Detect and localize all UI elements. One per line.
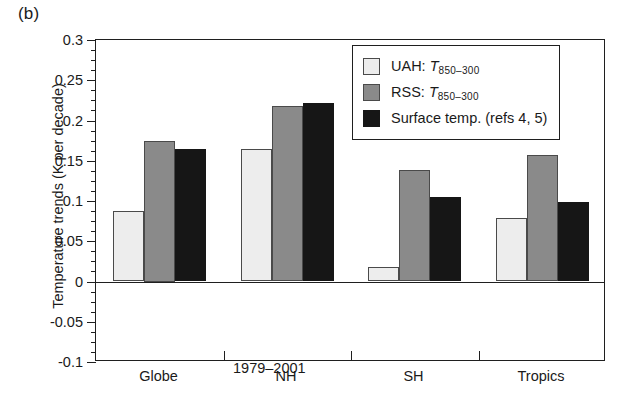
y-tick-minor [91, 70, 96, 71]
y-tick-minor [91, 141, 96, 142]
bar-surface-tropics [558, 202, 589, 282]
legend-row-uah: UAH: T850–300 [363, 53, 547, 79]
y-tick-major [87, 161, 96, 162]
y-tick-minor [91, 100, 96, 101]
y-tick-minor [91, 171, 96, 172]
y-tick-minor [91, 332, 96, 333]
y-tick-label: 0 [75, 274, 83, 290]
bar-uah-tropics [496, 218, 527, 282]
x-group-tick [351, 351, 352, 360]
y-tick-major [87, 201, 96, 202]
y-tick-label: 0.3 [63, 32, 83, 48]
x-axis-label-tropics: Tropics [518, 368, 565, 384]
y-tick-minor [91, 131, 96, 132]
x-axis-label-sh: SH [403, 368, 423, 384]
y-tick-label: -0.05 [50, 314, 83, 330]
y-tick-minor [91, 191, 96, 192]
y-tick-label: 0.25 [55, 72, 83, 88]
y-tick-minor [91, 352, 96, 353]
y-tick-major [87, 80, 96, 81]
y-tick-minor [91, 151, 96, 152]
y-tick-major [87, 322, 96, 323]
bar-rss-nh [272, 106, 303, 281]
y-tick-major [87, 121, 96, 122]
legend-swatch-uah [363, 58, 380, 75]
y-tick-minor [91, 211, 96, 212]
y-tick-major [87, 40, 96, 41]
y-tick-major [87, 282, 96, 283]
bar-rss-globe [144, 141, 175, 282]
legend-swatch-surface [363, 110, 380, 127]
panel-label: (b) [18, 4, 39, 24]
x-axis-label-nh: NH [276, 368, 297, 384]
bar-uah-sh [368, 267, 399, 281]
legend-label-rss: RSS: T850–300 [391, 84, 479, 100]
y-tick-label: 0.2 [63, 113, 83, 129]
zero-line [96, 282, 604, 283]
bar-surface-globe [175, 149, 206, 281]
y-tick-minor [91, 50, 96, 51]
legend-swatch-rss [363, 84, 380, 101]
bar-uah-nh [241, 149, 272, 281]
y-tick-minor [91, 221, 96, 222]
bar-uah-globe [113, 211, 144, 282]
y-tick-minor [91, 60, 96, 61]
y-tick-minor [91, 261, 96, 262]
y-tick-major [87, 362, 96, 363]
legend-row-surface: Surface temp. (refs 4, 5) [363, 105, 547, 131]
legend-label-surface: Surface temp. (refs 4, 5) [391, 110, 547, 126]
y-tick-minor [91, 110, 96, 111]
y-tick-minor [91, 271, 96, 272]
x-axis-label-globe: Globe [139, 368, 178, 384]
y-tick-label: 0.1 [63, 193, 83, 209]
y-tick-label: 0.15 [55, 153, 83, 169]
y-tick-label: -0.1 [58, 354, 83, 370]
x-group-tick [224, 351, 225, 360]
bar-surface-nh [303, 103, 334, 282]
legend-label-uah: UAH: T850–300 [391, 58, 480, 74]
y-tick-minor [91, 90, 96, 91]
bar-rss-tropics [527, 155, 558, 281]
bar-surface-sh [430, 197, 461, 282]
y-tick-minor [91, 342, 96, 343]
y-tick-minor [91, 231, 96, 232]
legend-row-rss: RSS: T850–300 [363, 79, 547, 105]
y-tick-minor [91, 251, 96, 252]
x-group-tick [479, 351, 480, 360]
y-tick-major [87, 241, 96, 242]
bar-rss-sh [399, 170, 430, 281]
y-tick-minor [91, 312, 96, 313]
chart-legend: UAH: T850–300RSS: T850–300Surface temp. … [352, 45, 560, 140]
y-tick-label: 0.05 [55, 233, 83, 249]
y-tick-minor [91, 302, 96, 303]
y-tick-minor [91, 181, 96, 182]
y-tick-minor [91, 292, 96, 293]
